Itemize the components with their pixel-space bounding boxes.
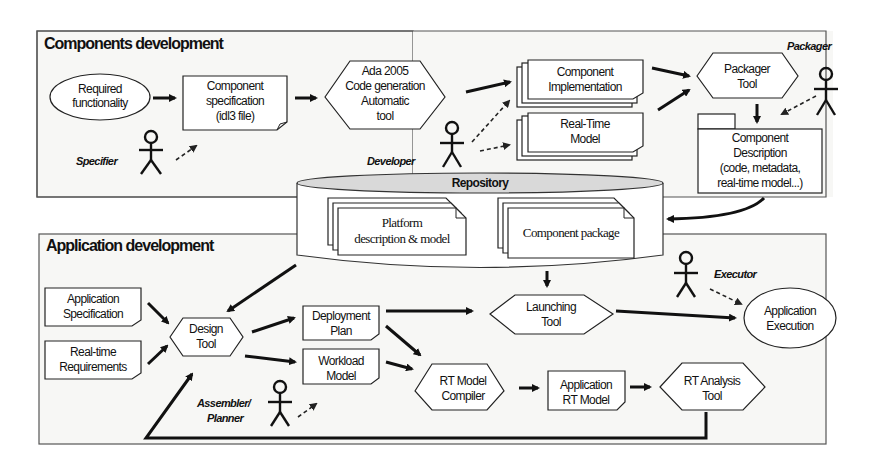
svg-text:Required: Required [78,82,122,96]
svg-text:Packager: Packager [724,62,770,76]
required-functionality[interactable]: Required functionality [50,74,150,120]
svg-text:Requirements: Requirements [59,360,127,374]
repository-label: Repository [452,176,510,190]
components-panel-title: Components development [44,35,225,52]
svg-text:RT Analysis: RT Analysis [684,374,741,388]
svg-text:Code generation: Code generation [345,79,425,93]
component-implementation[interactable]: Component Implementation [517,60,643,107]
svg-text:Tool: Tool [196,337,216,351]
specifier-label: Specifier [76,155,118,167]
svg-text:Application: Application [67,292,119,306]
svg-text:Compiler: Compiler [441,389,485,403]
svg-text:(idl3 file): (idl3 file) [216,109,255,123]
application-specification[interactable]: Application Specification [45,288,141,326]
svg-text:Deployment: Deployment [312,309,371,323]
svg-text:Launching: Launching [526,300,576,314]
rt-model-compiler[interactable]: RT Model Compiler [415,364,504,410]
svg-text:Tool: Tool [541,315,561,329]
design-tool[interactable]: Design Tool [170,318,243,356]
assembler-label: Assembler/ [196,397,253,409]
svg-text:specification: specification [206,94,264,108]
svg-text:Plan: Plan [330,324,352,338]
code-generation-tool[interactable]: Ada 2005 Code generation Automatic tool [325,61,445,129]
svg-text:Model: Model [326,369,356,383]
svg-text:(code, metadata,: (code, metadata, [720,161,801,175]
svg-text:Ada 2005: Ada 2005 [362,64,410,78]
component-development-diagram: Components development Application devel… [0,0,880,466]
svg-text:functionality: functionality [72,96,128,110]
executor-label: Executor [714,268,758,280]
svg-text:Component package: Component package [523,225,620,240]
platform-description-doc[interactable]: Platform description & model [328,198,466,255]
svg-text:RT Model: RT Model [440,374,487,388]
svg-text:Workload: Workload [318,354,364,368]
packager-tool[interactable]: Packager Tool [697,53,798,98]
svg-text:Application: Application [560,378,612,392]
svg-text:real-time model...): real-time model...) [717,176,803,190]
workload-model[interactable]: Workload Model [303,349,379,384]
svg-text:Automatic: Automatic [361,94,410,108]
svg-text:Implementation: Implementation [548,80,622,94]
real-time-model[interactable]: Real-Time Model [517,113,643,160]
svg-text:description & model: description & model [354,231,450,246]
deployment-plan[interactable]: Deployment Plan [303,306,379,340]
application-execution[interactable]: Application Execution [744,288,836,348]
svg-text:Design: Design [189,322,223,336]
planner-label: Planner [207,412,244,424]
component-specification[interactable]: Component specification (idl3 file) [183,76,287,130]
application-rt-model[interactable]: Application RT Model [548,371,625,410]
component-package-doc[interactable]: Component package [498,198,634,258]
svg-text:Model: Model [570,132,600,146]
developer-label: Developer [367,155,416,167]
repository: Repository Platform description & model … [297,173,663,268]
svg-text:Application: Application [764,304,816,318]
svg-text:tool: tool [377,109,394,123]
svg-text:Component: Component [207,79,265,93]
real-time-requirements[interactable]: Real-time Requirements [45,341,141,379]
svg-text:Specification: Specification [63,307,123,321]
svg-text:Description: Description [733,146,786,160]
svg-text:Real-time: Real-time [70,345,117,359]
svg-text:Platform: Platform [382,215,423,230]
packager-label: Packager [787,40,832,52]
application-panel-title: Application development [46,237,215,254]
svg-text:Component: Component [732,131,790,145]
svg-text:Execution: Execution [766,319,813,333]
svg-text:Tool: Tool [702,389,722,403]
svg-text:Real-Time: Real-Time [560,117,610,131]
svg-text:RT Model: RT Model [563,393,610,407]
svg-text:Component: Component [557,65,615,79]
rt-analysis-tool[interactable]: RT Analysis Tool [660,363,765,410]
svg-text:Tool: Tool [737,77,757,91]
